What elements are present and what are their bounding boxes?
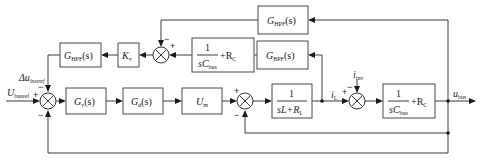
block-gd: Gd(s) [123,88,163,114]
arrow-into-inner-sum-left [230,98,237,104]
upper-summing-junction [153,47,169,63]
block-inductor: 1 sL+RL [272,84,312,118]
block-kv: Kv [118,43,139,67]
arrow-into-upper-sum-right [169,52,176,58]
arrow-into-left-sum-bottom [45,110,51,117]
sign-upper-plus: + [170,41,175,51]
sign-inner-minus: − [234,110,239,120]
arrow-into-inner-sum-bottom [242,110,248,117]
arrow-into-gv [59,98,66,104]
sign-inner-plus: + [234,86,239,96]
arrow-into-ghpf-top [308,17,315,23]
block-gbpf: GBPF(s) [257,41,308,69]
block-ghpf-left: GHPF(s) [60,43,101,67]
sign-left-minus-top: − [38,82,43,92]
label-iinv: iinv [353,69,363,81]
iinv-summing-junction [349,93,365,109]
arrow-into-gbpf [308,52,315,58]
arrow-into-iinv-sum-left [342,98,349,104]
block-diagram: GHPF(s) GBPF(s) 1 sCbus +RC Kv GHPF(s) G… [0,0,482,164]
sign-left-plus: + [33,90,38,100]
svg-text:Gd(s): Gd(s) [131,96,152,108]
arrow-into-ghpf-left [101,52,108,58]
arrow-into-um [175,98,182,104]
block-cbus-right: 1 sCbus +RC [383,84,435,118]
sign-iinv-minus: − [347,82,352,92]
label-ubusref: Ubusref [7,87,29,99]
arrow-into-kv [139,52,146,58]
arrow-into-gd [116,98,123,104]
node-il [320,99,324,103]
wire-il-to-gbpf [312,55,322,101]
arrow-into-cbus-right [376,98,383,104]
arrow-into-inductor [265,98,272,104]
node-ubus [446,99,450,103]
arrow-into-left-sum-top [45,85,51,92]
svg-text:1: 1 [396,88,401,99]
block-um: Um [182,88,222,114]
arrow-output-ubus [469,98,476,104]
block-gv: Gv(s) [66,88,106,114]
block-cbus-upper: 1 sCbus +RC [192,38,254,72]
arrow-into-iinv-sum-top [354,86,360,93]
svg-text:Gv(s): Gv(s) [74,96,95,108]
left-summing-junction [40,93,56,109]
svg-text:1: 1 [289,88,294,99]
label-ubus: ubus [453,88,467,100]
block-ghpf-top: GHPF(s) [258,6,308,34]
label-il: iL [331,89,338,101]
svg-text:1: 1 [205,42,210,53]
sign-left-minus-bottom: − [38,110,43,120]
sign-upper-minus: − [164,34,169,44]
inner-summing-junction [237,93,253,109]
node-feedback [446,131,450,135]
wire-ghpf-to-left-sum [48,55,60,89]
